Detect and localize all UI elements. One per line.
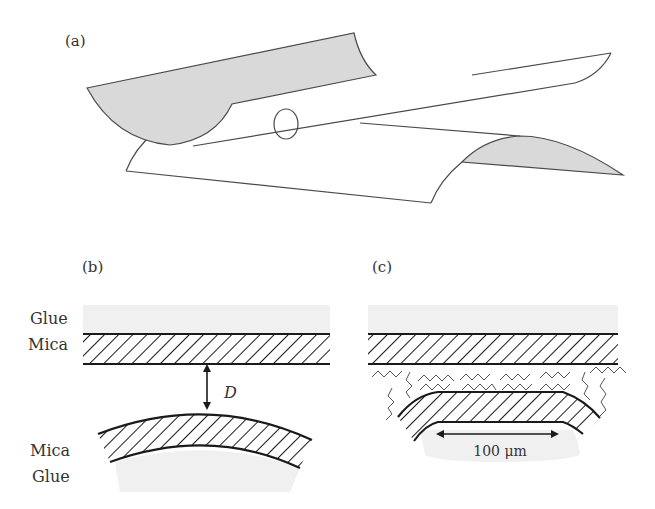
mica-layer-top (368, 334, 618, 364)
panel-b-label: (b) (82, 258, 103, 276)
label-glue-top: Glue (30, 309, 68, 328)
panel-a: (a) (65, 32, 623, 203)
scale-label: 100 μm (473, 443, 527, 459)
mica-layer-top (83, 334, 330, 364)
panel-b: (b) Glue Mica Mica Glue D (28, 258, 330, 492)
label-glue-bottom: Glue (32, 467, 70, 486)
glue-layer-top (368, 305, 618, 334)
distance-label: D (223, 383, 237, 402)
panel-c-label: (c) (372, 258, 392, 276)
label-mica-bottom: Mica (30, 441, 70, 460)
figure-canvas: (a) (b) Glue Mica Mica Glue (0, 0, 655, 509)
glue-layer-top (83, 305, 330, 334)
label-mica-top: Mica (28, 335, 68, 354)
panel-a-label: (a) (65, 32, 86, 50)
panel-c: (c) 100 (368, 258, 626, 462)
